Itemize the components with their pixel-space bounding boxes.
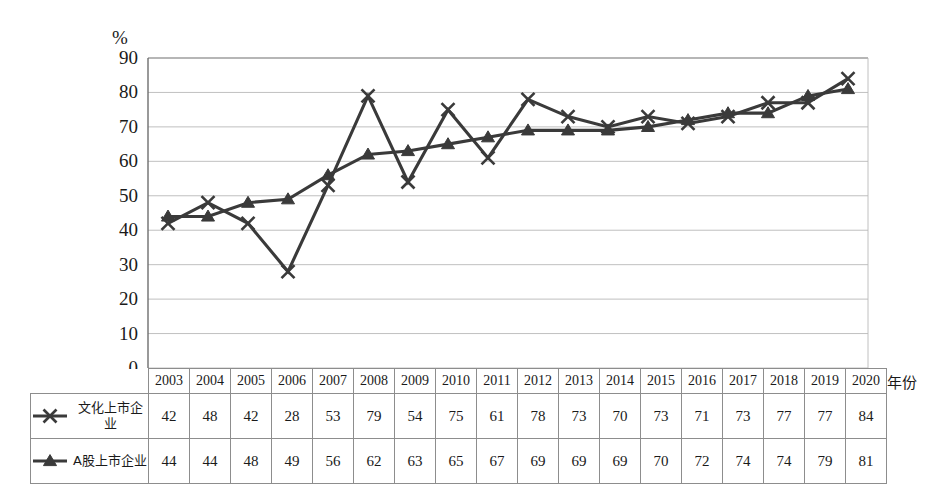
value-cell-2020: 84 xyxy=(846,394,887,439)
series-2 xyxy=(161,83,854,221)
value-cell-2003: 44 xyxy=(149,439,190,484)
legend-cross-marker-icon xyxy=(31,408,69,424)
year-header-2020: 2020 xyxy=(846,369,887,394)
value-cell-2009: 63 xyxy=(395,439,436,484)
value-cell-2020: 81 xyxy=(846,439,887,484)
value-cell-2014: 70 xyxy=(600,394,641,439)
value-cell-2019: 79 xyxy=(805,439,846,484)
series-1 xyxy=(162,72,855,278)
value-cell-2016: 72 xyxy=(682,439,723,484)
value-cell-2018: 77 xyxy=(764,394,805,439)
value-cell-2004: 44 xyxy=(190,439,231,484)
value-cell-2008: 62 xyxy=(354,439,395,484)
value-cell-2004: 48 xyxy=(190,394,231,439)
table-corner-cell xyxy=(31,369,149,394)
year-header-2014: 2014 xyxy=(600,369,641,394)
legend-item-1: 文化上市企业 xyxy=(31,394,149,439)
value-cell-2011: 67 xyxy=(477,439,518,484)
x-axis-label: 年份 xyxy=(887,369,918,394)
table-row: 文化上市企业4248422853795475617873707371737777… xyxy=(31,394,918,439)
year-header-2010: 2010 xyxy=(436,369,477,394)
value-cell-2013: 73 xyxy=(559,394,600,439)
year-header-2006: 2006 xyxy=(272,369,313,394)
value-cell-2007: 56 xyxy=(313,439,354,484)
value-cell-2010: 75 xyxy=(436,394,477,439)
year-header-2015: 2015 xyxy=(641,369,682,394)
value-cell-2012: 78 xyxy=(518,394,559,439)
chart-figure: % 9080706050403020100 200320042005200620… xyxy=(0,0,929,504)
legend-item-2: A股上市企业 xyxy=(31,439,149,484)
year-header-2012: 2012 xyxy=(518,369,559,394)
year-header-2009: 2009 xyxy=(395,369,436,394)
year-header-2007: 2007 xyxy=(313,369,354,394)
value-cell-2009: 54 xyxy=(395,394,436,439)
year-header-2019: 2019 xyxy=(805,369,846,394)
year-header-2004: 2004 xyxy=(190,369,231,394)
value-cell-2010: 65 xyxy=(436,439,477,484)
year-header-2008: 2008 xyxy=(354,369,395,394)
year-header-2011: 2011 xyxy=(477,369,518,394)
value-cell-2005: 42 xyxy=(231,394,272,439)
value-cell-2017: 73 xyxy=(723,394,764,439)
value-cell-2015: 70 xyxy=(641,439,682,484)
row-end-spacer xyxy=(887,439,918,484)
value-cell-2003: 42 xyxy=(149,394,190,439)
value-cell-2005: 48 xyxy=(231,439,272,484)
value-cell-2018: 74 xyxy=(764,439,805,484)
value-cell-2012: 69 xyxy=(518,439,559,484)
value-cell-2016: 71 xyxy=(682,394,723,439)
year-header-2005: 2005 xyxy=(231,369,272,394)
value-cell-2015: 73 xyxy=(641,394,682,439)
value-cell-2019: 77 xyxy=(805,394,846,439)
year-header-2017: 2017 xyxy=(723,369,764,394)
year-header-2003: 2003 xyxy=(149,369,190,394)
value-cell-2011: 61 xyxy=(477,394,518,439)
row-end-spacer xyxy=(887,394,918,439)
value-cell-2006: 49 xyxy=(272,439,313,484)
legend-label: A股上市企业 xyxy=(73,453,147,469)
legend-triangle-marker-icon xyxy=(31,453,69,469)
year-header-2013: 2013 xyxy=(559,369,600,394)
value-cell-2014: 69 xyxy=(600,439,641,484)
value-cell-2017: 74 xyxy=(723,439,764,484)
legend-label: 文化上市企业 xyxy=(73,400,148,432)
value-cell-2013: 69 xyxy=(559,439,600,484)
value-cell-2008: 79 xyxy=(354,394,395,439)
table-header-row: 2003200420052006200720082009201020112012… xyxy=(31,369,918,394)
data-table: 2003200420052006200720082009201020112012… xyxy=(30,368,918,484)
table-row: A股上市企业4444484956626365676969697072747479… xyxy=(31,439,918,484)
value-cell-2006: 28 xyxy=(272,394,313,439)
value-cell-2007: 53 xyxy=(313,394,354,439)
year-header-2018: 2018 xyxy=(764,369,805,394)
year-header-2016: 2016 xyxy=(682,369,723,394)
